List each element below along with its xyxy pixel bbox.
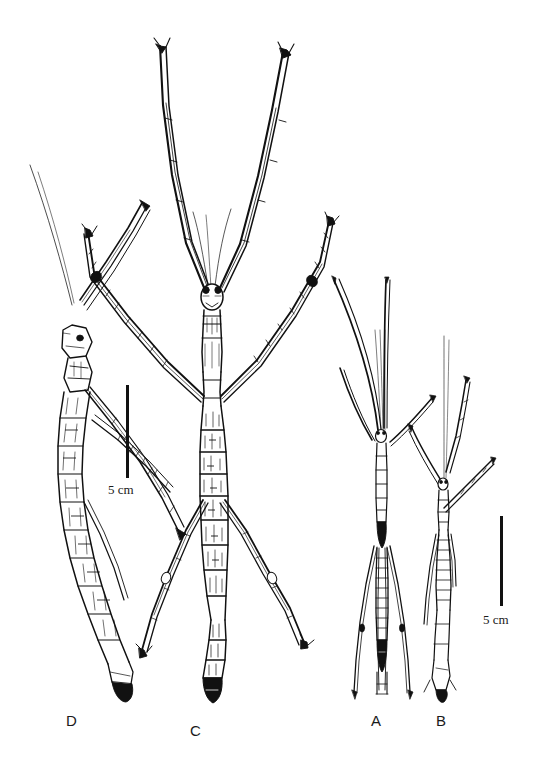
insect-illustrations <box>0 0 543 770</box>
specimen-label-a: A <box>371 712 381 729</box>
specimen-b-drawing <box>408 336 496 702</box>
specimen-label-d: D <box>66 712 77 729</box>
specimen-label-b: B <box>436 712 446 729</box>
scale-bar-right-label: 5 cm <box>483 612 509 628</box>
figure-plate: 5 cm 5 cm D C A B <box>0 0 543 770</box>
scale-bar-right <box>500 516 503 606</box>
specimen-d-drawing <box>30 165 186 702</box>
specimen-a-drawing <box>332 276 436 699</box>
scale-bar-left <box>126 385 129 478</box>
specimen-label-c: C <box>190 722 201 739</box>
specimen-c-drawing <box>82 38 339 703</box>
scale-bar-left-label: 5 cm <box>108 482 134 498</box>
